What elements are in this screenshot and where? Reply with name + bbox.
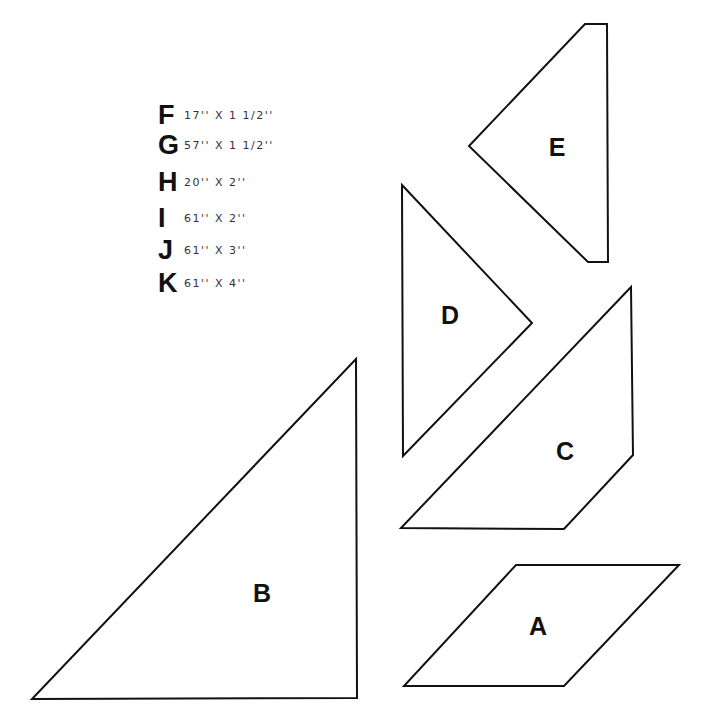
cut-letter: J [158,237,184,264]
piece-e-label: E [549,135,566,160]
cut-dimensions: 61'' X 2'' [184,213,247,224]
cut-letter: I [158,205,184,232]
cut-list-item-j: J 61'' X 3'' [158,237,247,264]
piece-e-outline [469,24,608,262]
piece-c-label: C [556,439,574,464]
cut-list-item-k: K 61'' X 4'' [158,270,247,297]
cut-dimensions: 61'' X 3'' [184,245,247,256]
cut-letter: K [158,270,184,297]
cut-dimensions: 17'' X 1 1/2'' [184,110,274,121]
cut-letter: G [158,132,184,159]
pieces-layer [0,0,712,722]
cut-list-item-h: H 20'' X 2'' [158,169,247,196]
piece-b-label: B [253,581,271,606]
piece-d-label: D [441,303,459,328]
cut-list-item-i: I 61'' X 2'' [158,205,247,232]
cut-dimensions: 57'' X 1 1/2'' [184,140,274,151]
piece-b-outline [32,359,357,699]
cut-letter: H [158,169,184,196]
cut-dimensions: 61'' X 4'' [184,278,247,289]
cut-list-item-f: F 17'' X 1 1/2'' [158,102,274,129]
piece-a-label: A [529,614,547,639]
cut-list-item-g: G 57'' X 1 1/2'' [158,132,274,159]
diagram-canvas: A B C D E F 17'' X 1 1/2'' G 57'' X 1 1/… [0,0,712,722]
cut-dimensions: 20'' X 2'' [184,177,247,188]
cut-letter: F [158,102,184,129]
